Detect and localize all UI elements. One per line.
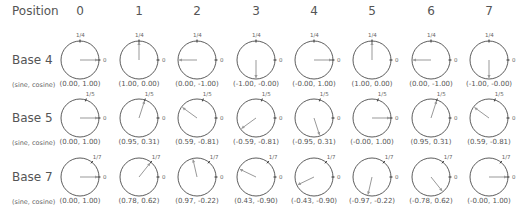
- dial-base5-pos6: 01/5: [401, 93, 461, 143]
- coord-value: (-0.00, 1.00): [350, 138, 394, 146]
- coord-value: (-0.95, 0.31): [292, 138, 336, 146]
- zero-tick-label: 0: [337, 174, 341, 180]
- coord-caption-base-4: (sine, cosine): [12, 81, 55, 89]
- fraction-tick-label: 1/5: [320, 91, 329, 97]
- fraction-tick: [494, 99, 495, 102]
- position-header-5: 5: [368, 4, 376, 18]
- arrow-head-icon: [95, 116, 98, 119]
- fraction-tick-label: 1/4: [310, 32, 319, 38]
- dial-base7-pos1: 01/7: [109, 152, 169, 202]
- position-header-7: 7: [485, 4, 493, 18]
- dial-base4-pos4: 01/4: [284, 35, 344, 85]
- zero-tick-label: 0: [103, 57, 107, 63]
- coord-value: (-1.00, -0.00): [466, 80, 512, 88]
- fraction-tick-label: 1/7: [269, 154, 278, 160]
- position-header-3: 3: [252, 4, 260, 18]
- dial-base5-pos1: 01/5: [109, 93, 169, 143]
- dial-base4-pos5: 01/4: [342, 35, 402, 85]
- dial-base5-pos3: 01/5: [226, 93, 286, 143]
- coord-value: (1.00, 0.00): [351, 80, 392, 88]
- coord-value: (0.43, -0.90): [234, 197, 278, 205]
- coord-value: (0.59, -0.81): [467, 138, 511, 146]
- zero-tick-label: 0: [512, 115, 516, 121]
- fraction-tick: [261, 99, 262, 102]
- zero-tick-label: 0: [220, 174, 224, 180]
- arrow-head-icon: [413, 58, 416, 61]
- fraction-tick-label: 1/7: [93, 154, 102, 160]
- arrow-head-icon: [329, 58, 332, 61]
- zero-tick-label: 0: [162, 174, 166, 180]
- coord-value: (0.97, -0.22): [175, 197, 219, 205]
- arrow-head-icon: [367, 191, 370, 194]
- fraction-tick-label: 1/7: [152, 154, 161, 160]
- fraction-tick-label: 1/4: [135, 32, 144, 38]
- dial-base4-pos0: 01/4: [50, 35, 110, 85]
- coord-caption-base-7: (sine, cosine): [12, 198, 55, 206]
- coord-value: (-0.78, 0.62): [409, 197, 453, 205]
- coord-value: (-0.97, -0.22): [349, 197, 395, 205]
- fraction-tick: [202, 99, 203, 102]
- dial-base5-pos4: 01/5: [284, 93, 344, 143]
- position-header-0: 0: [76, 4, 84, 18]
- arrow-head-icon: [137, 42, 140, 45]
- zero-tick-label: 0: [395, 174, 399, 180]
- coord-value: (0.00, 1.00): [59, 197, 100, 205]
- arrow-head-icon: [179, 58, 182, 61]
- row-label-base-4: Base 4: [12, 53, 53, 67]
- arrow-head-icon: [387, 116, 390, 119]
- dial-base5-pos7: 01/5: [459, 93, 519, 143]
- fraction-tick-label: 1/5: [495, 91, 504, 97]
- dial-base4-pos7: 01/4: [459, 35, 519, 85]
- coord-value: (0.00, 1.00): [59, 80, 100, 88]
- fraction-tick-label: 1/4: [252, 32, 261, 38]
- coord-value: (-0.43, -0.90): [291, 197, 337, 205]
- zero-tick-label: 0: [220, 57, 224, 63]
- position-header-6: 6: [427, 4, 435, 18]
- zero-tick-label: 0: [454, 174, 458, 180]
- row-label-base-7: Base 7: [12, 170, 53, 184]
- fraction-tick: [377, 99, 378, 102]
- fraction-tick-label: 1/5: [262, 91, 271, 97]
- fraction-tick-label: 1/5: [437, 91, 446, 97]
- zero-tick-label: 0: [512, 174, 516, 180]
- zero-tick-label: 0: [103, 174, 107, 180]
- fraction-tick-label: 1/5: [86, 91, 95, 97]
- fraction-tick-label: 1/7: [210, 154, 219, 160]
- dial-base7-pos4: 01/7: [284, 152, 344, 202]
- dial-base5-pos2: 01/5: [167, 93, 227, 143]
- fraction-tick-label: 1/7: [444, 154, 453, 160]
- zero-tick-label: 0: [220, 115, 224, 121]
- fraction-tick-label: 1/5: [145, 91, 154, 97]
- zero-tick-label: 0: [454, 115, 458, 121]
- position-header-2: 2: [193, 4, 201, 18]
- coord-value: (0.00, -1.00): [175, 80, 219, 88]
- coord-value: (-0.00, 1.00): [292, 80, 336, 88]
- dial-base5-pos5: 01/5: [342, 93, 402, 143]
- fraction-tick-label: 1/4: [76, 32, 85, 38]
- arrow-head-icon: [370, 42, 373, 45]
- position-header-1: 1: [135, 4, 143, 18]
- zero-tick-label: 0: [337, 57, 341, 63]
- fraction-tick-label: 1/4: [368, 32, 377, 38]
- zero-tick-label: 0: [337, 115, 341, 121]
- dial-base7-pos6: 01/7: [401, 152, 461, 202]
- zero-tick-label: 0: [512, 57, 516, 63]
- coord-caption-base-5: (sine, cosine): [12, 139, 55, 147]
- fraction-tick-label: 1/5: [378, 91, 387, 97]
- zero-tick-label: 0: [395, 57, 399, 63]
- arrow-head-icon: [254, 75, 257, 78]
- fraction-tick: [319, 99, 320, 102]
- arrow-head-icon: [504, 175, 507, 178]
- dial-base4-pos2: 01/4: [167, 35, 227, 85]
- zero-tick-label: 0: [454, 57, 458, 63]
- zero-tick-label: 0: [103, 115, 107, 121]
- coord-value: (-0.59, -0.81): [233, 138, 279, 146]
- fraction-tick-label: 1/4: [485, 32, 494, 38]
- coord-value: (0.59, -0.81): [175, 138, 219, 146]
- arrow-head-icon: [487, 75, 490, 78]
- fraction-tick-label: 1/7: [327, 154, 336, 160]
- coord-value: (0.95, 0.31): [118, 138, 159, 146]
- zero-tick-label: 0: [395, 115, 399, 121]
- coord-value: (0.78, 0.62): [118, 197, 159, 205]
- zero-tick-label: 0: [279, 115, 283, 121]
